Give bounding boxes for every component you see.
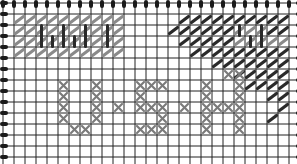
- stitch-pattern-chart: [0, 0, 297, 164]
